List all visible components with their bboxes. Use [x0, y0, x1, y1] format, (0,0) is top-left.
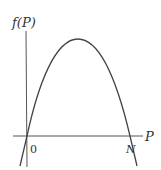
- diagram: f(P) P 0 N: [0, 0, 161, 170]
- y-axis: [26, 31, 27, 167]
- x-axis-label: P: [144, 129, 154, 144]
- parabola-curve: [20, 39, 137, 166]
- y-axis-label: f(P): [11, 15, 36, 30]
- root-label: N: [125, 143, 136, 156]
- origin-label: 0: [30, 143, 37, 156]
